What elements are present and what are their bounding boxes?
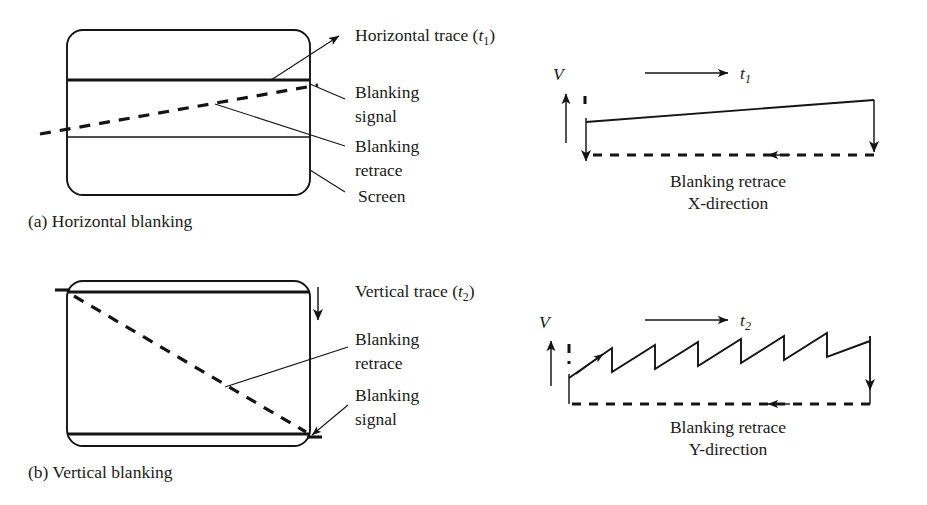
blanking-retrace-dashed-b (74, 296, 306, 432)
leader-blanking-signal-a (310, 84, 345, 99)
label-blanking-retrace-b-line1: Blanking (355, 329, 419, 349)
figure-root: Horizontal trace (t1) Blanking signal Bl… (0, 0, 927, 505)
label-blanking-retrace-b-line2: retrace (355, 353, 403, 373)
leader-horizontal-trace (271, 36, 339, 80)
caption-panel-b: (b) Vertical blanking (28, 462, 173, 482)
label-blanking-signal-b-line2: signal (355, 409, 397, 429)
leader-blanking-retrace-a (215, 104, 345, 146)
chart-x-caption-line1: Blanking retrace (670, 171, 786, 191)
caption-panel-a: (a) Horizontal blanking (28, 211, 193, 231)
leader-screen (310, 170, 345, 192)
label-blanking-signal-a-line1: Blanking (355, 82, 419, 102)
label-horizontal-trace-close: ) (489, 25, 495, 45)
chart-x-caption-line2: X-direction (688, 193, 769, 213)
panel-b-labels: Vertical trace (t2) Blanking retrace Bla… (28, 281, 475, 482)
chart-x-xlabel: t1 (740, 63, 751, 86)
screen-rectangle-b (67, 281, 310, 446)
label-blanking-signal-a-line2: signal (355, 106, 397, 126)
label-vertical-trace-close: ) (469, 281, 475, 301)
chart-x-ylabel: V (553, 64, 566, 84)
label-horizontal-trace-text: Horizontal trace ( (355, 25, 479, 45)
blanking-retrace-dashed-a (40, 85, 318, 134)
chart-x-group: V t1 Blanking retrace X-direction (553, 63, 874, 213)
chart-y-first-ramp-arrow (576, 354, 603, 374)
chart-y-group: V t2 Blanking retrace Y-direction (539, 310, 870, 459)
label-vertical-trace-text: Vertical trace ( (355, 281, 458, 301)
leader-blanking-signal-b (312, 405, 348, 435)
label-blanking-signal-b-line1: Blanking (355, 385, 419, 405)
chart-y-ylabel: V (539, 312, 552, 332)
chart-y-xlabel: t2 (740, 310, 751, 333)
label-vertical-trace: Vertical trace (t2) (355, 281, 475, 304)
panel-a-labels: Horizontal trace (t1) Blanking signal Bl… (28, 25, 495, 231)
chart-x-ramp-trace (586, 100, 874, 122)
leader-blanking-retrace-b (225, 347, 348, 387)
chart-y-caption-line2: Y-direction (689, 439, 768, 459)
chart-y-caption-line1: Blanking retrace (670, 417, 786, 437)
label-blanking-retrace-a-line1: Blanking (355, 136, 419, 156)
panel-a-screen-group (40, 30, 345, 195)
chart-y-sawtooth-trace (569, 333, 870, 378)
label-screen: Screen (358, 186, 406, 206)
label-blanking-retrace-a-line2: retrace (355, 160, 403, 180)
panel-b-screen-group (55, 281, 348, 446)
screen-rectangle-a (67, 30, 310, 195)
label-horizontal-trace: Horizontal trace (t1) (355, 25, 495, 48)
blanking-diagram-svg: Horizontal trace (t1) Blanking signal Bl… (0, 0, 927, 505)
